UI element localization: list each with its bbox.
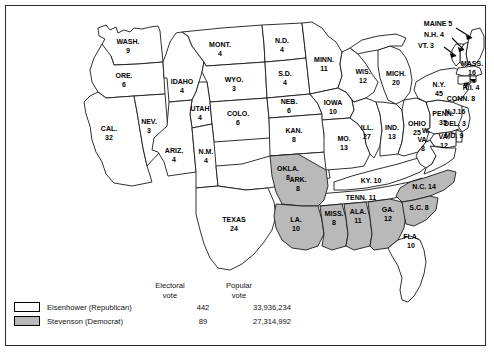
label-minnesota: MINN. <box>314 56 334 63</box>
label-utah-votes: 4 <box>198 114 202 121</box>
legend-label-stevenson: Stevenson (Democrat) <box>47 317 177 326</box>
label-michigan: MICH. <box>386 70 406 77</box>
map-stage: WASH. 9 ORE. 6 CAL. 32 NEV. 3 IDAHO 4 MO… <box>6 6 485 345</box>
label-rhodeisland: R.I. 4 <box>463 84 480 91</box>
label-arkansas-votes: 8 <box>296 185 300 192</box>
label-idaho-votes: 4 <box>180 87 184 94</box>
legend-header-popular: Popular vote <box>196 281 282 300</box>
label-nevada-votes: 3 <box>147 127 151 134</box>
label-idaho: IDAHO <box>171 78 194 85</box>
label-florida: FLA. <box>403 233 419 240</box>
label-nevada: NEV. <box>141 118 157 125</box>
label-missouri: MO. <box>337 135 350 142</box>
label-florida-votes: 10 <box>407 242 415 249</box>
label-virginia: VA. <box>438 133 449 140</box>
label-iowa: IOWA <box>324 99 343 106</box>
label-illinois: ILL. <box>361 124 373 131</box>
label-louisiana-votes: 10 <box>292 225 300 232</box>
label-newmexico: N.M. <box>199 148 214 155</box>
label-oregon: ORE. <box>115 72 132 79</box>
label-northdakota-votes: 4 <box>280 46 284 53</box>
label-newjersey: N.J.16 <box>445 108 466 115</box>
label-washington-votes: 9 <box>126 47 130 54</box>
label-indiana-votes: 13 <box>388 133 396 140</box>
label-newyork-votes: 45 <box>435 90 443 97</box>
legend-swatch-republican <box>14 302 40 312</box>
label-massachusetts-votes: 16 <box>468 69 476 76</box>
label-wyoming: WYO. <box>225 76 244 83</box>
label-mississippi: MISS. <box>324 210 343 217</box>
label-arizona-votes: 4 <box>172 156 176 163</box>
state-southdakota[interactable] <box>265 58 310 98</box>
map-frame: WASH. 9 ORE. 6 CAL. 32 NEV. 3 IDAHO 4 MO… <box>5 5 486 346</box>
legend-label-eisenhower: Eisenhower (Republican) <box>47 303 177 312</box>
legend-electoral-stevenson: 89 <box>177 317 229 326</box>
label-newmexico-votes: 4 <box>204 157 208 164</box>
label-utah: UTAH <box>191 105 210 112</box>
label-southdakota: S.D. <box>278 70 292 77</box>
label-kansas: KAN. <box>285 127 302 134</box>
label-nebraska: NEB. <box>281 98 298 105</box>
label-alabama-votes: 11 <box>354 217 362 224</box>
label-michigan-votes: 20 <box>392 79 400 86</box>
label-georgia-votes: 12 <box>384 215 392 222</box>
label-arizona: ARIZ. <box>165 147 183 154</box>
label-massachusetts: MASS. <box>461 60 483 67</box>
label-ohio: OHIO <box>408 120 426 127</box>
legend-row-eisenhower[interactable]: Eisenhower (Republican) 442 33,936,234 <box>14 300 334 314</box>
label-iowa-votes: 10 <box>329 108 337 115</box>
state-pennsylvania[interactable] <box>426 100 464 134</box>
legend: Electoral vote Popular vote Eisenhower (… <box>14 278 334 328</box>
label-minnesota-votes: 11 <box>320 65 328 72</box>
label-westvirginia-1: W. <box>422 127 430 134</box>
label-nebraska-votes: 6 <box>287 107 291 114</box>
label-georgia: GA. <box>382 206 395 213</box>
label-oregon-votes: 6 <box>122 81 126 88</box>
label-ohio-votes: 25 <box>413 129 421 136</box>
label-maine: MAINE 5 <box>424 20 453 27</box>
legend-header-electoral: Electoral vote <box>144 281 196 300</box>
state-colorado[interactable] <box>210 98 270 142</box>
label-wyoming-votes: 3 <box>232 85 236 92</box>
state-kansas[interactable] <box>269 114 326 156</box>
label-wisconsin: WIS. <box>355 68 370 75</box>
label-mississippi-votes: 8 <box>332 219 336 226</box>
label-montana-votes: 4 <box>218 50 222 57</box>
label-newhampshire: N.H. 4 <box>424 31 444 38</box>
label-missouri-votes: 13 <box>340 144 348 151</box>
label-alabama: ALA. <box>350 208 366 215</box>
label-texas-votes: 24 <box>230 225 238 232</box>
label-northcarolina: N.C. 14 <box>412 183 436 190</box>
legend-row-stevenson[interactable]: Stevenson (Democrat) 89 27,314,992 <box>14 314 334 328</box>
label-colorado: COLO. <box>227 110 249 117</box>
label-southdakota-votes: 4 <box>283 79 287 86</box>
legend-popular-eisenhower: 33,936,234 <box>229 303 315 312</box>
label-connecticut: CONN. 8 <box>447 95 476 102</box>
label-washington: WASH. <box>117 38 140 45</box>
legend-electoral-eisenhower: 442 <box>177 303 229 312</box>
label-illinois-votes: 27 <box>363 133 371 140</box>
legend-header-row: Electoral vote Popular vote <box>14 278 334 300</box>
label-california: CAL. <box>101 125 117 132</box>
label-louisiana: LA. <box>290 216 301 223</box>
label-newyork: N.Y. <box>433 81 446 88</box>
label-arkansas: ARK. <box>289 176 306 183</box>
label-indiana: IND. <box>385 124 399 131</box>
label-vermont: VT. 3 <box>418 42 434 49</box>
label-westvirginia-2: VA. <box>417 136 428 143</box>
label-texas: TEXAS <box>222 216 246 223</box>
label-kentucky: KY. 10 <box>361 177 382 184</box>
label-montana: MONT. <box>209 41 231 48</box>
label-wisconsin-votes: 12 <box>359 77 367 84</box>
label-colorado-votes: 6 <box>236 119 240 126</box>
legend-popular-stevenson: 27,314,992 <box>229 317 315 326</box>
label-california-votes: 32 <box>105 134 113 141</box>
label-virginia-votes: 12 <box>440 142 448 149</box>
label-oklahoma: OKLA. <box>277 165 299 172</box>
label-westvirginia-votes: 8 <box>421 145 425 152</box>
label-southcarolina: S.C. 8 <box>409 204 429 211</box>
label-delaware: DEL. 3 <box>444 120 466 127</box>
label-northdakota: N.D. <box>275 37 289 44</box>
label-tennessee: TENN. 11 <box>346 194 376 201</box>
legend-swatch-democrat <box>14 316 40 326</box>
